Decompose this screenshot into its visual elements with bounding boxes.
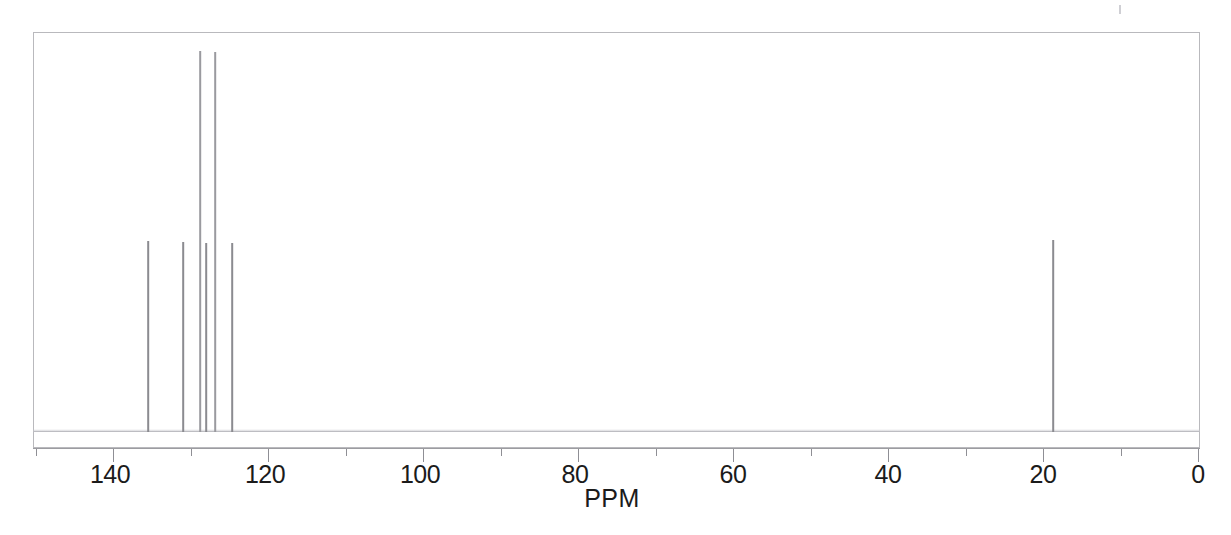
axis-tick-minor [656, 449, 657, 456]
axis-tick-label: 0 [1191, 460, 1204, 489]
axis-tick-minor [36, 449, 37, 456]
axis-tick-minor [191, 449, 192, 456]
scan-artifact-speck [1119, 5, 1121, 14]
axis-tick-label: 20 [1030, 460, 1057, 489]
x-axis-title: PPM [584, 484, 640, 513]
baseline [33, 431, 1200, 432]
axis-tick-label: 60 [720, 460, 747, 489]
axis-tick-minor [346, 449, 347, 456]
plot-frame [33, 32, 1200, 448]
spectrum-page: 140120100806040200 PPM [0, 0, 1231, 535]
axis-tick-label: 140 [90, 460, 130, 489]
x-axis-line [33, 448, 1200, 449]
axis-tick-minor [501, 449, 502, 456]
axis-tick-label: 120 [245, 460, 285, 489]
axis-tick-minor [1121, 449, 1122, 456]
axis-tick-minor [811, 449, 812, 456]
axis-tick-label: 100 [400, 460, 440, 489]
axis-tick-label: 40 [875, 460, 902, 489]
axis-tick-minor [966, 449, 967, 456]
